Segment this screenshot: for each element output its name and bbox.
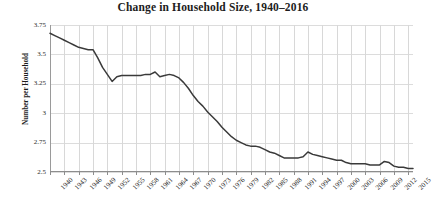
x-axis-tickmark	[222, 172, 223, 175]
x-axis-tick-label: 2003	[360, 176, 376, 192]
x-axis-tickmark	[337, 172, 338, 175]
x-axis-tickmark	[351, 172, 352, 175]
x-axis-tick-label: 1964	[174, 176, 190, 192]
x-axis-tick-label: 1958	[145, 176, 161, 192]
x-axis-tickmark	[122, 172, 123, 175]
x-axis-tickmark	[279, 172, 280, 175]
x-axis-tick-label: 1961	[159, 176, 175, 192]
x-axis-tickmark	[208, 172, 209, 175]
x-axis-tick-label: 1973	[217, 176, 233, 192]
x-axis-tick-label: 2009	[389, 176, 405, 192]
x-axis-tickmark	[193, 172, 194, 175]
x-axis-tick-label: 1946	[88, 176, 104, 192]
x-axis-tick-label: 1976	[231, 176, 247, 192]
x-axis-tick-label: 1994	[317, 176, 333, 192]
x-axis-tickmark	[64, 172, 65, 175]
x-axis-tickmark	[165, 172, 166, 175]
x-axis-tick-label: 1952	[116, 176, 132, 192]
x-axis-tickmark	[79, 172, 80, 175]
x-axis-tick-label: 2006	[374, 176, 390, 192]
x-axis-tick-label: 1982	[260, 176, 276, 192]
x-axis-tick-label: 1997	[331, 176, 347, 192]
x-axis-tick-label: 2012	[403, 176, 419, 192]
x-axis-tickmark	[93, 172, 94, 175]
x-axis-tick-label: 1940	[59, 176, 75, 192]
x-axis-tickmark	[408, 172, 409, 175]
x-axis-tickmark	[107, 172, 108, 175]
x-axis-tick-label: 2000	[346, 176, 362, 192]
x-axis-tick-label: 1985	[274, 176, 290, 192]
x-axis-tickmark	[136, 172, 137, 175]
x-axis-tick-label: 1970	[202, 176, 218, 192]
x-axis-tickmark	[236, 172, 237, 175]
x-axis-tickmark	[251, 172, 252, 175]
x-axis-tick-label: 1991	[303, 176, 319, 192]
x-axis-tickmark	[294, 172, 295, 175]
x-axis-tickmark	[322, 172, 323, 175]
x-axis-tickmark	[394, 172, 395, 175]
x-axis-tickmark	[308, 172, 309, 175]
x-axis-tick-label: 1979	[245, 176, 261, 192]
x-axis-tickmark	[50, 172, 51, 175]
x-axis-tickmark	[179, 172, 180, 175]
x-axis-tickmark	[380, 172, 381, 175]
x-axis-tick-label: 1967	[188, 176, 204, 192]
x-axis-tick-label: 2015	[417, 176, 433, 192]
x-axis-tick-label: 1955	[131, 176, 147, 192]
x-axis-tickmark	[365, 172, 366, 175]
x-axis-tick-label: 1949	[102, 176, 118, 192]
x-axis-tick-label: 1988	[288, 176, 304, 192]
x-axis-tickmark	[150, 172, 151, 175]
x-axis-tickmark	[265, 172, 266, 175]
x-axis-tick-label: 1943	[73, 176, 89, 192]
